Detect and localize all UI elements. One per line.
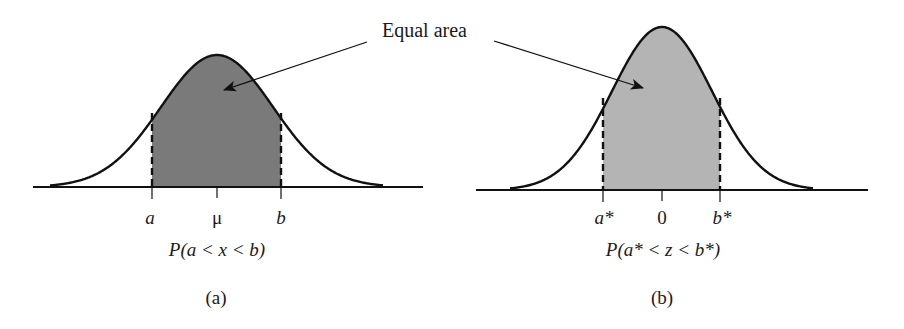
- panel-b-label-upper: b*: [713, 208, 732, 227]
- panel-a-probability-expression: P(a < x < b): [169, 240, 265, 259]
- panel-a-label-lower: a: [145, 208, 155, 227]
- panel-b-label-lower: a*: [595, 208, 614, 227]
- panel-b-label-zero: 0: [657, 208, 667, 227]
- equal-area-annotation: Equal area: [382, 19, 467, 42]
- panel-a-arrow: [224, 42, 367, 90]
- panel-a-normal-curve: [33, 42, 423, 199]
- panel-a-caption: (a): [205, 288, 226, 307]
- panel-b-shaded-area: [510, 27, 813, 190]
- panel-b-arrow: [494, 41, 643, 88]
- panel-a-label-upper: b: [276, 208, 286, 227]
- panel-a-shaded-area: [50, 55, 383, 187]
- panel-b-caption: (b): [651, 288, 673, 307]
- panel-b-normal-curve: [476, 27, 868, 202]
- panel-b-probability-expression: P(a* < z < b*): [606, 240, 720, 259]
- panel-a-label-mean: μ: [212, 208, 222, 227]
- normal-distribution-figure: [0, 0, 904, 329]
